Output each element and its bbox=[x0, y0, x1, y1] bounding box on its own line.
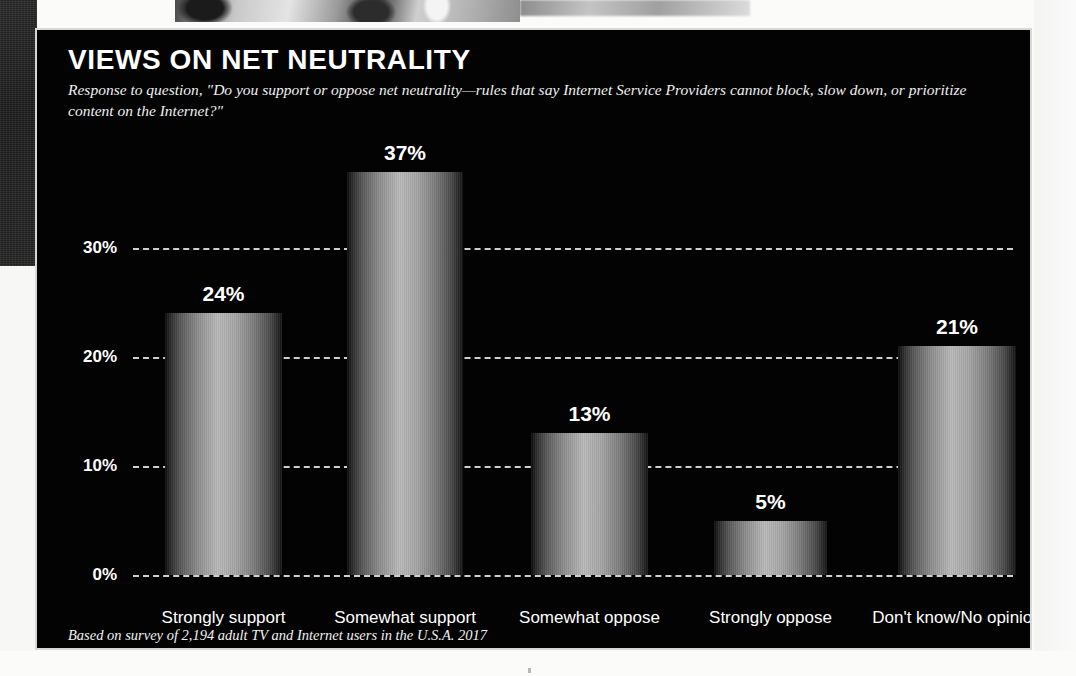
print-registration-mark bbox=[528, 668, 531, 673]
y-axis-tick-label: 0% bbox=[51, 565, 117, 585]
gridline-0 bbox=[133, 575, 1013, 577]
bar-value-label: 5% bbox=[714, 490, 827, 514]
bar-value-label: 13% bbox=[531, 402, 648, 426]
left-margin-texture bbox=[0, 0, 37, 266]
bar-2 bbox=[347, 172, 463, 575]
bottom-margin-paper bbox=[0, 651, 1076, 676]
magazine-page-background: VIEWS ON NET NEUTRALITY Response to ques… bbox=[0, 0, 1076, 676]
right-margin-paper bbox=[1034, 0, 1076, 676]
plot-area: 0%10%20%30%24%Strongly support37%Somewha… bbox=[37, 30, 1032, 650]
left-margin-paper bbox=[0, 266, 37, 676]
x-axis-category-label: Strongly support bbox=[120, 608, 327, 628]
y-axis-tick-label: 20% bbox=[51, 347, 117, 367]
bar-value-label: 24% bbox=[165, 282, 282, 306]
y-axis-tick-label: 10% bbox=[51, 456, 117, 476]
bar-3 bbox=[531, 433, 648, 575]
gridline-30 bbox=[133, 248, 1013, 250]
bar-5 bbox=[898, 346, 1016, 575]
chart-panel: VIEWS ON NET NEUTRALITY Response to ques… bbox=[35, 28, 1032, 650]
bar-1 bbox=[165, 313, 282, 575]
chart-panel-inner: VIEWS ON NET NEUTRALITY Response to ques… bbox=[37, 30, 1030, 648]
x-axis-category-label: Somewhat support bbox=[302, 608, 508, 628]
bar-4 bbox=[714, 521, 827, 576]
bar-value-label: 37% bbox=[347, 141, 463, 165]
photo-strip-top bbox=[175, 0, 520, 22]
y-axis-tick-label: 30% bbox=[51, 238, 117, 258]
bar-value-label: 21% bbox=[898, 315, 1016, 339]
x-axis-category-label: Don't know/No opinion bbox=[853, 608, 1032, 628]
photo-strip-top-right bbox=[520, 0, 750, 16]
x-axis-category-label: Somewhat oppose bbox=[486, 608, 693, 628]
x-axis-category-label: Strongly oppose bbox=[669, 608, 872, 628]
chart-footnote: Based on survey of 2,194 adult TV and In… bbox=[68, 627, 487, 644]
